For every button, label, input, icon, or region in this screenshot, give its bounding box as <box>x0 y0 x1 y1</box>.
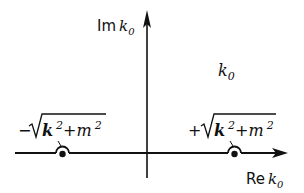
leader-positive <box>230 141 233 146</box>
real-axis-label: Rek0 <box>246 170 284 190</box>
svg-text:k2+m2: k2+m2 <box>42 119 102 140</box>
pole-positive-label: + k2+m2 <box>188 114 276 140</box>
complex-plane-diagram: Imk0 k0 Rek0 − k2+m2 + k2+m2 <box>0 0 304 193</box>
svg-text:k2+m2: k2+m2 <box>214 119 274 140</box>
real-axis-contour <box>15 147 288 159</box>
svg-text:−: − <box>18 121 31 140</box>
leader-negative <box>58 141 61 146</box>
imaginary-axis-label: Imk0 <box>97 17 135 37</box>
plane-label: k0 <box>218 61 235 83</box>
svg-text:+: + <box>188 121 201 140</box>
pole-positive <box>231 151 237 157</box>
diagram-svg: Imk0 k0 Rek0 − k2+m2 + k2+m2 <box>0 0 304 193</box>
pole-negative-label: − k2+m2 <box>18 114 106 140</box>
pole-negative <box>59 151 65 157</box>
